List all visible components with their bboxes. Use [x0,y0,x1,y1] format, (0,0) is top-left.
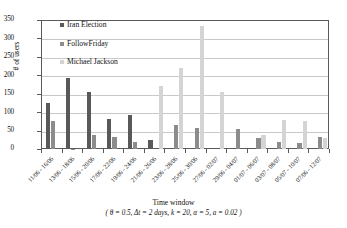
x-axis-title: Time window [0,198,347,207]
bar [220,92,224,149]
x-axis-tick-mark [226,149,227,153]
legend-item: FollowFriday [60,40,118,48]
bar-group [190,20,205,149]
bar [318,137,322,149]
bar-group [313,20,328,149]
y-axis-tick-label: 100 [0,109,14,116]
x-axis-tick-mark [62,149,63,153]
legend-swatch-icon [60,42,64,46]
bar [128,115,132,149]
bar [148,140,152,149]
y-axis-tick-label: 200 [0,72,14,79]
x-axis-tick-mark [288,149,289,153]
bar [159,86,163,149]
y-axis-tick-label: 350 [0,16,14,23]
x-axis-tick-mark [103,149,104,153]
x-axis-tick-mark [329,149,330,153]
y-axis-tick-label: 300 [0,35,14,42]
bar-group [148,20,163,149]
bar-chart: 050100150200250300350 # of users 11/06 -… [0,0,347,228]
legend-swatch-icon [60,23,64,27]
bar [303,121,307,149]
bar [179,68,183,149]
y-axis-title: # of users [13,24,21,88]
legend-label: Iran Election [67,21,106,29]
x-axis-tick-mark [164,149,165,153]
x-axis-tick-mark [41,149,42,153]
bar [92,135,96,149]
x-axis-tick-mark [144,149,145,153]
x-axis-tick-mark [123,149,124,153]
bar-group [292,20,307,149]
bar [200,26,204,149]
chart-legend: Iran ElectionFollowFridayMichael Jackson [60,21,118,66]
bar-group [128,20,143,149]
bar-group [210,20,225,149]
legend-label: FollowFriday [67,40,108,48]
y-axis-tick-label: 50 [0,127,14,134]
legend-item: Iran Election [60,21,118,29]
bar-group [46,20,61,149]
bar [107,119,111,149]
x-axis-parameters: ( θ = 0.5, Δt = 2 days, k = 20, α = 5, a… [0,209,347,218]
bar [87,92,91,149]
bar-group [251,20,266,149]
bar [46,103,50,149]
y-axis-tick-label: 150 [0,90,14,97]
bar-group [272,20,287,149]
x-axis-tick-mark [267,149,268,153]
x-axis-tick-mark [247,149,248,153]
x-axis-tick-mark [308,149,309,153]
x-axis-tick-mark [185,149,186,153]
bar [195,128,199,149]
bar [256,138,260,149]
bar-group [231,20,246,149]
bar [112,137,116,149]
bar [133,142,137,149]
legend-swatch-icon [60,60,64,64]
bar [297,143,301,149]
legend-item: Michael Jackson [60,58,118,66]
bar [51,121,55,149]
bar [277,142,281,149]
bar [282,120,286,149]
x-axis-tick-mark [82,149,83,153]
bar-group [169,20,184,149]
bar [323,138,327,149]
x-axis-tick-mark [206,149,207,153]
bar [174,125,178,149]
bar [236,129,240,149]
y-axis-tick-label: 0 [0,145,14,152]
bar [66,78,70,149]
legend-label: Michael Jackson [67,58,118,66]
bar [261,135,265,149]
